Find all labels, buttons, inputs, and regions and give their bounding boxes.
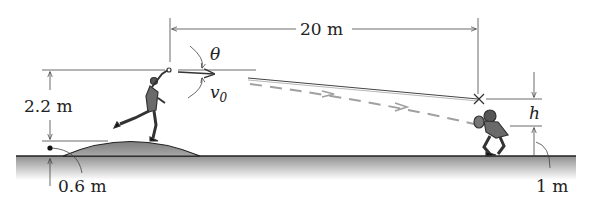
- mound-height-label: 0.6 m: [58, 176, 107, 196]
- catcher-figure: [474, 110, 508, 156]
- velocity-label: v0: [210, 82, 228, 105]
- projectile-diagram: 2.2 m 0.6 m 20 m θ v0: [0, 0, 590, 205]
- diagram-canvas: 2.2 m 0.6 m 20 m θ v0: [0, 0, 590, 205]
- catch-height-label: 1 m: [536, 176, 568, 196]
- distance-label: 20 m: [300, 19, 343, 39]
- angle-arc-upper: [190, 46, 203, 68]
- height-difference-dimension: [486, 72, 550, 168]
- pitcher-figure: [114, 68, 171, 141]
- release-height-label: 2.2 m: [24, 96, 73, 116]
- ball-trajectory: [250, 84, 474, 124]
- line-of-sight-shadow: [248, 80, 478, 101]
- line-of-sight: [248, 78, 478, 99]
- velocity-arrow: [178, 72, 214, 74]
- pitcher-mound: [63, 142, 200, 157]
- angle-arc-lower: [188, 78, 202, 98]
- angle-label: θ: [210, 44, 220, 64]
- height-difference-label: h: [529, 103, 540, 123]
